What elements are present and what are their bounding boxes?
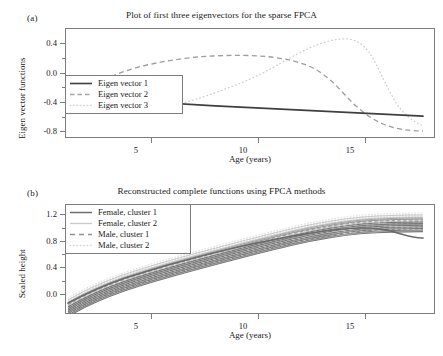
panel-b-plot-area: 1.2 0.8 0.4 0.0 5 10 15 Female, clust: [65, 204, 435, 314]
panel-b-ytick-0.4: [60, 267, 65, 268]
panel-a-ytick-minor-3: [62, 117, 65, 118]
dotted-line-icon: [69, 100, 93, 111]
panel-b: (b) Reconstructed complete functions usi…: [0, 178, 443, 356]
panel-a-xtick-5: [151, 138, 152, 143]
panel-a-title: Plot of first three eigenvectors for the…: [0, 10, 443, 20]
panel-a-xaxis-title: Age (years): [65, 154, 435, 164]
panel-b-legend-item-2: Female, cluster 2: [69, 218, 186, 229]
panel-b-legend-label-3: Male, cluster 1: [98, 229, 149, 240]
panel-a-xtick-10: [258, 138, 259, 143]
panel-a-ytick-0.0: [60, 73, 65, 74]
panel-b-xaxis-title: Age (years): [65, 330, 435, 340]
panel-b-legend-label-1: Female, cluster 1: [98, 207, 157, 218]
panel-b-ytick-label-3: 0.0: [23, 289, 57, 299]
panel-b-legend-label-4: Male, cluster 2: [98, 240, 149, 251]
panel-a-legend-label-3: Eigen vector 3: [98, 100, 148, 111]
panel-b-legend-item-1: Female, cluster 1: [69, 207, 186, 218]
panel-a: (a) Plot of first three eigenvectors for…: [0, 0, 443, 180]
panel-b-ytick-0.0: [60, 294, 65, 295]
panel-a-yaxis-title: Eigen vector functions: [17, 58, 27, 139]
dashed-line-icon: [69, 89, 93, 100]
panel-a-legend-label-1: Eigen vector 1: [98, 78, 148, 89]
panel-a-ytick--0.8: [60, 131, 65, 132]
panel-b-legend: Female, cluster 1 Female, cluster 2: [65, 204, 191, 254]
panel-a-xtick-15: [365, 138, 366, 143]
panel-a-plot-area: 0.4 0.0 -0.4 -0.8 5 10 15 Eigen vecto: [65, 28, 435, 138]
panel-b-legend-item-4: Male, cluster 2: [69, 240, 186, 251]
panel-b-ytick-label-1: 0.8: [23, 236, 57, 246]
panel-a-ytick-label-1: 0.0: [23, 68, 57, 78]
panel-b-title: Reconstructed complete functions using F…: [0, 186, 443, 196]
panel-b-legend-item-3: Male, cluster 1: [69, 229, 186, 240]
panel-b-yaxis-title: Scaled height: [17, 249, 27, 298]
panel-a-legend-item-3: Eigen vector 3: [69, 100, 178, 111]
dotted-line-icon: [69, 240, 93, 251]
solid-light-line-icon: [69, 218, 93, 229]
panel-a-ytick-label-2: -0.4: [23, 97, 57, 107]
panel-b-xtick-10: [258, 314, 259, 319]
panel-a-ytick-label-0: 0.4: [23, 38, 57, 48]
panel-b-xtick-15: [365, 314, 366, 319]
panel-a-ytick-0.4: [60, 43, 65, 44]
panel-b-ytick-minor-2: [62, 254, 65, 255]
panel-a-ytick-label-3: -0.8: [23, 126, 57, 136]
panel-b-ytick-minor-3: [62, 281, 65, 282]
solid-line-icon: [69, 78, 93, 89]
panel-b-xtick-5: [151, 314, 152, 319]
solid-line-icon: [69, 207, 93, 218]
panel-a-legend: Eigen vector 1 Eigen vector 2: [65, 75, 183, 114]
panel-a-ytick-minor-1: [62, 58, 65, 59]
panel-b-ytick-label-0: 1.2: [23, 209, 57, 219]
panel-a-legend-label-2: Eigen vector 2: [98, 89, 148, 100]
panel-b-ytick-label-2: 0.4: [23, 262, 57, 272]
dashed-line-icon: [69, 229, 93, 240]
figure-root: (a) Plot of first three eigenvectors for…: [0, 0, 443, 356]
panel-b-legend-label-2: Female, cluster 2: [98, 218, 157, 229]
panel-a-legend-item-2: Eigen vector 2: [69, 89, 178, 100]
panel-a-legend-item-1: Eigen vector 1: [69, 78, 178, 89]
